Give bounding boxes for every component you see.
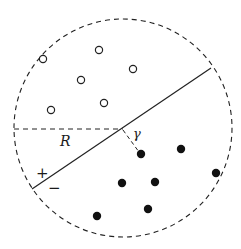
margin-label: γ [133,126,141,141]
negative-point [151,178,159,186]
svm-margin-diagram: R γ + − [0,0,241,249]
negative-side-label: − [48,179,61,197]
radius-label: R [59,133,71,149]
negative-point [93,212,101,220]
separating-hyperplane [32,68,211,189]
positive-class-points [39,46,136,113]
positive-side-label: + [36,164,49,182]
negative-class-points [93,145,220,220]
negative-point [144,205,152,213]
positive-point [95,46,102,53]
negative-point [212,169,220,177]
negative-point [177,145,185,153]
negative-point [137,150,145,158]
positive-point [129,65,136,72]
positive-point [47,106,54,113]
positive-point [100,99,107,106]
positive-point [39,55,46,62]
positive-point [77,76,84,83]
negative-point [118,179,126,187]
